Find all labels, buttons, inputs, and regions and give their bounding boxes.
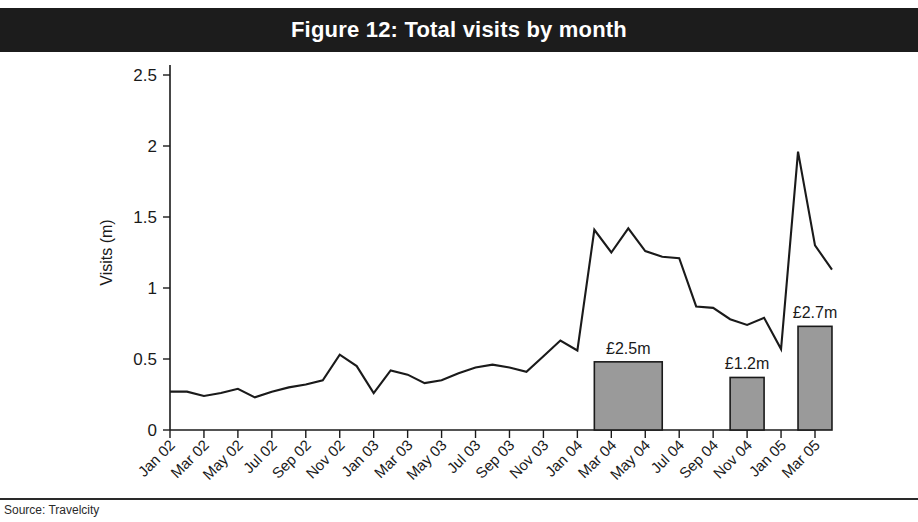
bar-value-label: £1.2m	[725, 355, 769, 372]
x-tick-label: Nov 04	[710, 436, 756, 482]
x-tick-label: Mar 05	[778, 436, 823, 481]
bar	[594, 362, 662, 430]
chart-svg: 00.511.522.5Visits (m)Jan 02Mar 02May 02…	[0, 52, 918, 492]
y-tick-label: 2	[148, 137, 157, 156]
source-note: Source: Travelcity	[4, 503, 99, 517]
y-tick-label: 1.5	[133, 208, 157, 227]
axes-group	[163, 65, 815, 438]
bar	[730, 377, 764, 430]
bar	[798, 326, 832, 430]
y-axis-title: Visits (m)	[98, 219, 115, 285]
footer-divider	[0, 498, 918, 500]
figure-container: Figure 12: Total visits by month 00.511.…	[0, 0, 918, 522]
y-tick-label: 0.5	[133, 350, 157, 369]
figure-title: Figure 12: Total visits by month	[291, 17, 627, 43]
x-tick-label: Nov 02	[302, 436, 348, 482]
bar-value-label: £2.5m	[606, 340, 650, 357]
figure-title-bar: Figure 12: Total visits by month	[0, 8, 918, 52]
x-tick-label: Nov 03	[506, 436, 552, 482]
y-tick-label: 0	[148, 421, 157, 440]
bar-value-label: £2.7m	[793, 304, 837, 321]
y-tick-label: 2.5	[133, 66, 157, 85]
y-tick-label: 1	[148, 279, 157, 298]
plot-area: 00.511.522.5Visits (m)Jan 02Mar 02May 02…	[0, 52, 918, 492]
labels-group: 00.511.522.5Visits (m)Jan 02Mar 02May 02…	[98, 66, 837, 483]
